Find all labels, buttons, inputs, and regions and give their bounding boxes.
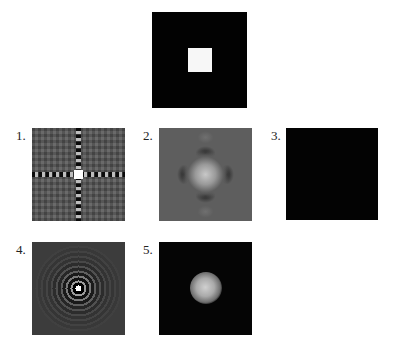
panel-3-label: 3.	[271, 129, 281, 142]
ring-pattern	[32, 242, 125, 335]
panel-5-soft-disk	[159, 242, 252, 335]
central-peak	[74, 170, 83, 179]
white-square-aperture	[188, 48, 212, 72]
panel-1-label: 1.	[16, 129, 26, 142]
panel-1-sinc-cross	[32, 128, 125, 221]
panel-2-blurred-blob	[159, 128, 252, 221]
central-blob	[159, 128, 252, 221]
panel-3-black	[286, 128, 378, 220]
panel-4-label: 4.	[16, 243, 26, 256]
source-image-square-aperture	[152, 12, 247, 108]
bright-disk	[190, 272, 222, 304]
panel-2-label: 2.	[143, 129, 153, 142]
panel-4-concentric-rings	[32, 242, 125, 335]
panel-5-label: 5.	[143, 243, 153, 256]
